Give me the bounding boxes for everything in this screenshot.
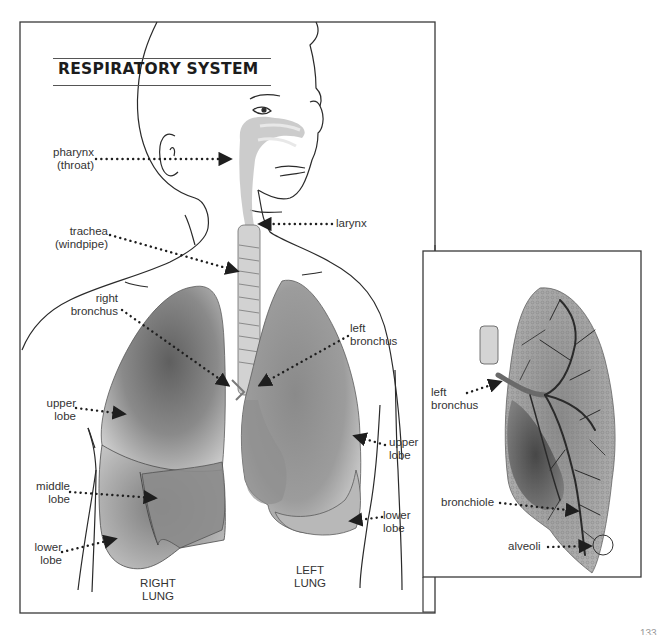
title-rule-bottom	[53, 85, 271, 86]
label-left-lung: LEFT LUNG	[285, 564, 335, 590]
trachea-leader	[110, 235, 237, 271]
label-left-upper-lobe: upper lobe	[389, 436, 418, 462]
inset-label-bronchiole: bronchiole	[441, 496, 494, 509]
label-right-bronchus: right bronchus	[60, 292, 118, 318]
label-right-middle-lobe: middle lobe	[24, 480, 70, 506]
page-number: 133	[640, 627, 657, 635]
inset-label-alveoli: alveoli	[508, 540, 541, 553]
label-left-bronchus: left bronchus	[350, 322, 397, 348]
label-right-lower-lobe: lower lobe	[16, 541, 62, 567]
right-lung-drawing	[99, 286, 225, 569]
label-right-upper-lobe: upper lobe	[30, 397, 76, 423]
respiratory-system-diagram: RESPIRATORY SYSTEM pharynx (throat) lary…	[0, 0, 664, 635]
label-left-lower-lobe: lower lobe	[383, 509, 410, 535]
label-trachea: trachea (windpipe)	[40, 225, 108, 251]
page-title: RESPIRATORY SYSTEM	[58, 60, 259, 78]
label-pharynx: pharynx (throat)	[38, 146, 94, 172]
inset-label-left-bronchus: left bronchus	[431, 386, 478, 412]
title-rule-top	[53, 58, 271, 59]
label-right-lung: RIGHT LUNG	[128, 577, 188, 603]
label-larynx: larynx	[336, 217, 367, 230]
